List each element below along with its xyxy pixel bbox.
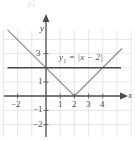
x-tick-label--2: −2 bbox=[11, 100, 21, 109]
equation-annotation: y1 = |x − 2| bbox=[59, 52, 103, 64]
x-tick-label-3: 3 bbox=[86, 100, 91, 109]
plot-canvas bbox=[0, 0, 135, 141]
y-tick-label--1: −1 bbox=[33, 105, 43, 114]
grid-lines bbox=[3, 30, 131, 137]
y-axis-label: y bbox=[40, 24, 44, 33]
equation-body: = |x − 2| bbox=[66, 52, 103, 62]
y-axis-arrow bbox=[43, 14, 50, 22]
x-tick-label-2: 2 bbox=[72, 100, 77, 109]
graph-figure: y1 bbox=[0, 0, 135, 141]
x-tick-label-1: 1 bbox=[58, 100, 63, 109]
y-tick-label-1: 1 bbox=[38, 77, 43, 86]
x-tick-label-4: 4 bbox=[100, 100, 105, 109]
y-tick-label--2: −2 bbox=[33, 120, 43, 129]
x-axis-arrow bbox=[120, 93, 128, 100]
x-axis-label: x bbox=[128, 91, 132, 100]
y-tick-label-3: 3 bbox=[36, 49, 41, 58]
